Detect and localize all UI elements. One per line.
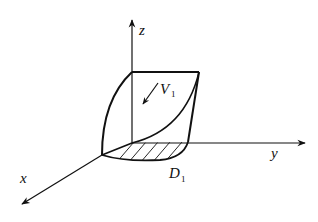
- x-axis-label: x: [19, 170, 27, 186]
- volume-label-v1: V 1: [160, 81, 176, 99]
- x-axis: [22, 155, 102, 204]
- v1-pointer-arrow: [143, 83, 158, 104]
- y-axis-label: y: [269, 145, 278, 161]
- svg-text:1: 1: [171, 89, 176, 99]
- domain-label-d1: D 1: [168, 165, 186, 184]
- svg-text:V: V: [160, 81, 171, 97]
- svg-text:1: 1: [181, 174, 186, 184]
- z-axis-label: z: [138, 22, 145, 38]
- domain-d1-hatching: [110, 135, 200, 170]
- solid-v1: [102, 72, 199, 160]
- diagram-canvas: z y x V 1 D 1: [0, 0, 318, 222]
- svg-text:D: D: [168, 165, 180, 181]
